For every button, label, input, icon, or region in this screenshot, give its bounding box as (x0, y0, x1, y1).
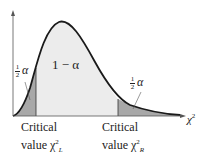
superscript: 2 (136, 138, 140, 146)
frac-num: 1 (16, 64, 20, 71)
value-chi-text: value χ (102, 138, 136, 152)
alpha-symbol: α (137, 75, 143, 89)
value-chi-text: value χ (21, 138, 55, 152)
left-critical-label: Critical value χ2L (21, 121, 63, 153)
frac-den: 2 (131, 84, 135, 91)
superscript: 2 (192, 112, 196, 120)
x-axis-arrow-icon (180, 114, 186, 118)
frac-num: 1 (131, 76, 135, 83)
alpha-symbol: α (22, 63, 28, 77)
center-region-label: 1 − α (52, 59, 79, 71)
subscript: R (140, 146, 144, 153)
x-axis-label: χ2 (187, 110, 195, 125)
right-tail-label: 12α (130, 76, 143, 91)
y-axis-arrow-icon (11, 10, 15, 16)
frac-den: 2 (16, 72, 20, 79)
critical-text: Critical (102, 121, 144, 133)
superscript: 2 (55, 138, 59, 146)
critical-text: Critical (21, 121, 63, 133)
subscript: L (59, 146, 63, 153)
right-critical-label: Critical value χ2R (102, 121, 144, 153)
left-tail-label: 12α (15, 64, 28, 79)
